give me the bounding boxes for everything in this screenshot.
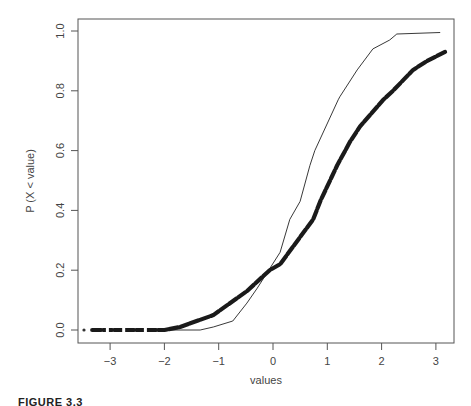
thick-ecdf-points [92, 52, 445, 333]
x-tick-label: −3 [104, 355, 117, 367]
plot-frame [78, 19, 454, 343]
x-axis-title: values [250, 374, 282, 386]
x-tick-label: −1 [212, 355, 225, 367]
y-axis-title: P (X < value) [24, 149, 36, 213]
figure-caption: FIGURE 3.3 [18, 396, 83, 406]
thin-cdf-line [94, 33, 440, 331]
y-tick-label: 0.0 [54, 322, 66, 337]
series-layer [82, 33, 445, 334]
x-axis: −3−2−10123 [104, 343, 439, 367]
y-tick-label: 0.8 [54, 83, 66, 98]
x-tick-label: −2 [158, 355, 171, 367]
y-tick-label: 0.6 [54, 143, 66, 158]
x-tick-label: 2 [379, 355, 385, 367]
x-tick-label: 1 [324, 355, 330, 367]
cdf-comparison-chart: −3−2−10123 0.00.20.40.60.81.0 values P (… [0, 0, 471, 406]
x-tick-label: 0 [270, 355, 276, 367]
y-tick-label: 1.0 [54, 23, 66, 38]
y-axis: 0.00.20.40.60.81.0 [54, 23, 78, 337]
y-tick-label: 0.4 [54, 203, 66, 218]
thick-ecdf-curve [92, 52, 445, 330]
point-marker [82, 328, 85, 331]
y-tick-label: 0.2 [54, 263, 66, 278]
x-tick-label: 3 [433, 355, 439, 367]
